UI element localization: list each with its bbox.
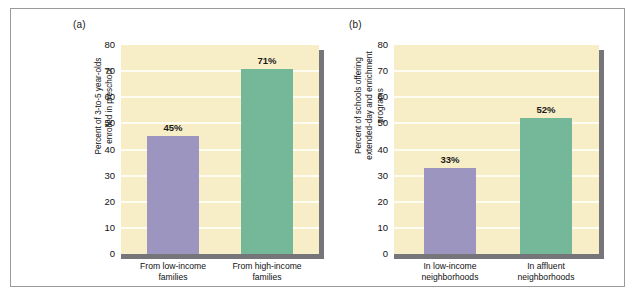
y-axis-tick-label: 30: [95, 171, 115, 181]
x-axis-category-label: From low-income families: [121, 261, 225, 283]
y-axis-tick-label: 0: [95, 249, 115, 259]
y-axis-tick-label: 70: [95, 66, 115, 76]
panel-a-tag: (a): [73, 19, 86, 30]
y-axis-tick-label: 50: [368, 118, 388, 128]
panel-a-baseline: [121, 254, 324, 259]
y-axis-tick-label: 10: [95, 223, 115, 233]
gridline: [394, 70, 599, 72]
x-axis-category-label: In affluent neighborhoods: [492, 261, 600, 283]
x-axis-category-label: From high-income families: [215, 261, 319, 283]
bar-value-label: 45%: [143, 122, 203, 133]
panel-a: (a) Percent of 3-to-5 year-olds enrolled…: [51, 9, 321, 286]
y-axis-tick-label: 0: [368, 249, 388, 259]
y-axis-tick-label: 20: [368, 197, 388, 207]
x-axis-category-label: In low-income neighborhoods: [396, 261, 504, 283]
bar[interactable]: [520, 118, 572, 254]
bar[interactable]: [241, 69, 293, 254]
bar[interactable]: [424, 168, 476, 254]
y-axis-tick-label: 60: [368, 92, 388, 102]
y-axis-tick-label: 10: [368, 223, 388, 233]
panel-a-plot-area: [121, 45, 319, 254]
y-axis-tick-label: 70: [368, 66, 388, 76]
panel-b-baseline: [394, 254, 604, 259]
figure-frame: (a) Percent of 3-to-5 year-olds enrolled…: [10, 8, 625, 287]
panel-b: (b) Percent of schools offering extended…: [321, 9, 616, 286]
bar[interactable]: [147, 136, 199, 254]
y-axis-tick-label: 60: [95, 92, 115, 102]
y-axis-tick-label: 80: [368, 40, 388, 50]
y-axis-tick-label: 40: [368, 145, 388, 155]
gridline: [394, 96, 599, 98]
panel-b-plot-area: [394, 45, 599, 254]
bar-value-label: 52%: [516, 104, 576, 115]
y-axis-tick-label: 20: [95, 197, 115, 207]
bar-value-label: 71%: [237, 55, 297, 66]
y-axis-tick-label: 30: [368, 171, 388, 181]
y-axis-tick-label: 40: [95, 145, 115, 155]
y-axis-tick-label: 80: [95, 40, 115, 50]
bar-value-label: 33%: [420, 154, 480, 165]
y-axis-tick-label: 50: [95, 118, 115, 128]
